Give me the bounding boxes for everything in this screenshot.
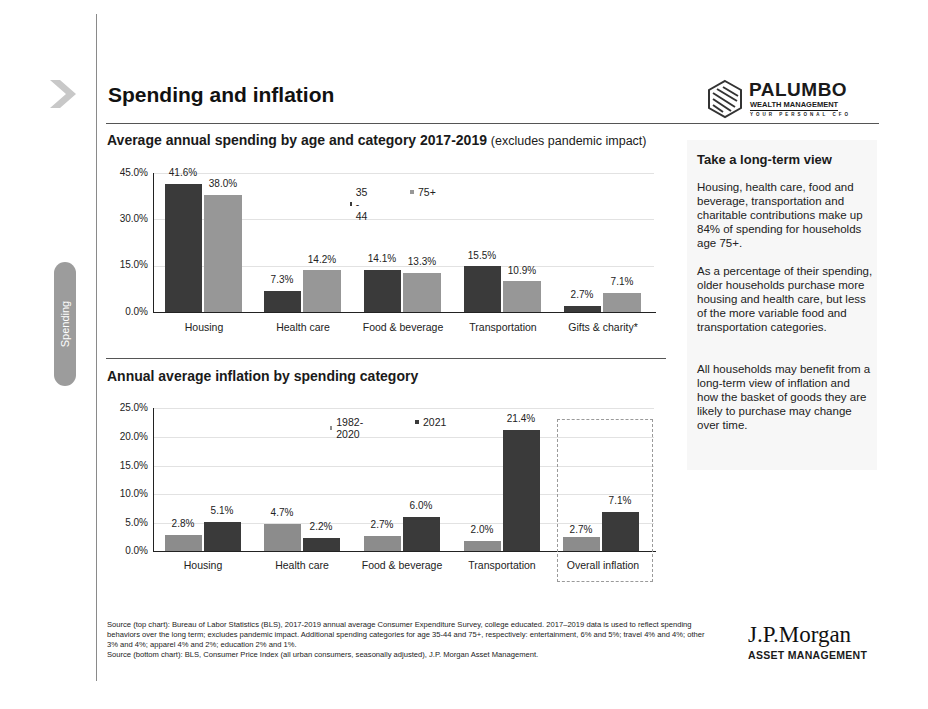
value-label: 2.7% (556, 524, 606, 535)
x-label: Transportation (447, 559, 557, 571)
y-tick: 0.0% (108, 306, 148, 317)
value-label: 2.0% (457, 524, 507, 535)
legend-item-35-44: 35 - 44 (350, 186, 370, 222)
value-label: 7.3% (257, 274, 307, 285)
value-label: 21.4% (496, 413, 546, 424)
value-label: 2.7% (557, 289, 607, 300)
y-tick: 5.0% (108, 517, 148, 528)
logo-subtitle: WEALTH MANAGEMENT (750, 100, 838, 111)
y-tick: 15.0% (108, 259, 148, 270)
value-label: 2.7% (357, 519, 407, 530)
y-tick: 0.0% (108, 545, 148, 556)
y-tick: 30.0% (108, 213, 148, 224)
bar-transport-75plus (503, 281, 541, 312)
value-label: 14.2% (297, 254, 347, 265)
gridline (154, 173, 654, 174)
legend-item-75plus: 75+ (410, 186, 436, 198)
value-label: 2.8% (158, 518, 208, 529)
source-bottom-chart: Source (bottom chart): BLS, Consumer Pri… (107, 650, 717, 660)
jpmorgan-logo: J.P.Morgan ASSET MANAGEMENT (748, 622, 888, 661)
bar-overall-1982 (563, 537, 600, 551)
logo-name: PALUMBO (749, 79, 847, 101)
bar-transport-35-44 (464, 266, 501, 312)
legend-label: 1982-2020 (336, 416, 365, 440)
x-label: Overall inflation (548, 559, 658, 571)
source-notes: Source (top chart): Bureau of Labor Stat… (107, 620, 717, 660)
side-tab-spending[interactable]: Spending (54, 262, 76, 386)
chart-divider (106, 358, 666, 359)
legend-swatch (415, 420, 419, 424)
commentary-paragraph: All households may benefit from a long-t… (697, 362, 873, 432)
value-label: 2.2% (296, 521, 346, 532)
value-label: 5.1% (197, 505, 247, 516)
y-axis (153, 173, 154, 313)
bar-housing-2021 (204, 522, 241, 551)
bar-health-35-44 (264, 291, 301, 312)
bar-health-75plus (303, 270, 341, 312)
bar-food-75plus (403, 273, 441, 312)
y-tick: 20.0% (108, 431, 148, 442)
bar-health-2021 (303, 538, 340, 551)
title-divider (106, 123, 879, 124)
chevron-right-icon[interactable] (48, 76, 78, 112)
commentary-paragraph: Housing, health care, food and beverage,… (697, 180, 873, 250)
chart1-title: Average annual spending by age and categ… (107, 132, 646, 148)
legend-item-1982-2020: 1982-2020 (330, 416, 365, 440)
chart1-subtitle: (excludes pandemic impact) (491, 134, 647, 148)
page-title: Spending and inflation (108, 83, 334, 107)
y-tick: 15.0% (108, 460, 148, 471)
y-tick: 10.0% (108, 488, 148, 499)
bar-food-1982 (364, 536, 401, 551)
x-label: Health care (247, 559, 357, 571)
bar-housing-35-44 (165, 184, 202, 312)
value-label: 10.9% (497, 265, 547, 276)
legend-label: 2021 (423, 416, 446, 428)
legend-item-2021: 2021 (415, 416, 446, 428)
bar-food-2021 (403, 517, 440, 551)
value-label: 15.5% (457, 250, 507, 261)
x-label: Food & beverage (348, 321, 458, 333)
value-label: 38.0% (198, 178, 248, 189)
x-label: Health care (248, 321, 358, 333)
commentary-panel: Take a long-term view Housing, health ca… (687, 140, 877, 470)
left-divider (96, 14, 97, 681)
commentary-heading: Take a long-term view (697, 152, 832, 167)
jpmorgan-subtitle: ASSET MANAGEMENT (748, 649, 888, 661)
jpmorgan-wordmark: J.P.Morgan (748, 622, 888, 648)
bar-transport-2021 (503, 430, 540, 551)
chart1-title-text: Average annual spending by age and categ… (107, 132, 487, 148)
source-top-chart: Source (top chart): Bureau of Labor Stat… (107, 620, 717, 650)
x-label: Food & beverage (347, 559, 457, 571)
value-label: 4.7% (257, 507, 307, 518)
value-label: 41.6% (158, 167, 208, 178)
legend-label: 75+ (418, 186, 436, 198)
hexagon-logo-icon (705, 79, 745, 119)
bar-gifts-35-44 (564, 306, 601, 312)
x-label: Gifts & charity* (548, 321, 658, 333)
bar-food-35-44 (364, 270, 401, 312)
value-label: 6.0% (396, 500, 446, 511)
commentary-paragraph: As a percentage of their spending, older… (697, 264, 873, 334)
logo-tagline: YOUR PERSONAL CFO (750, 112, 851, 117)
x-label: Housing (148, 559, 258, 571)
y-tick: 25.0% (108, 402, 148, 413)
x-label: Transportation (448, 321, 558, 333)
bar-housing-75plus (204, 195, 242, 312)
bar-transport-1982 (464, 541, 501, 551)
legend-label: 35 - 44 (356, 186, 370, 222)
gridline (154, 408, 654, 409)
bar-gifts-75plus (603, 293, 641, 312)
y-tick: 45.0% (108, 167, 148, 178)
palumbo-logo: PALUMBO WEALTH MANAGEMENT YOUR PERSONAL … (705, 79, 885, 119)
legend-swatch (330, 426, 332, 430)
value-label: 7.1% (595, 495, 645, 506)
value-label: 13.3% (397, 256, 447, 267)
bar-housing-1982 (165, 535, 202, 551)
bar-overall-2021 (602, 512, 639, 551)
x-label: Housing (149, 321, 259, 333)
value-label: 7.1% (597, 276, 647, 287)
x-axis (153, 312, 656, 313)
y-axis (153, 408, 154, 552)
legend-swatch (410, 190, 414, 194)
side-tab-label: Spending (59, 301, 71, 348)
